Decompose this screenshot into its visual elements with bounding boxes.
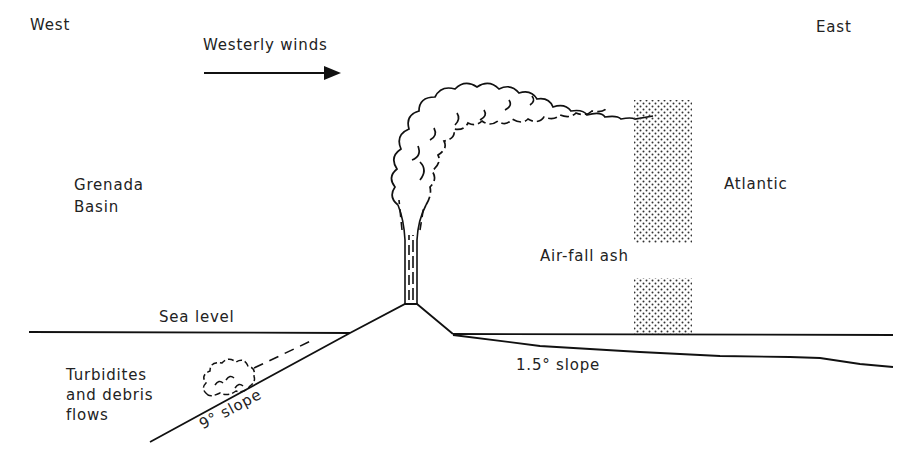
turbidites-label-line1: Turbidites bbox=[66, 366, 147, 385]
ash-plume-cloud bbox=[391, 83, 653, 205]
west-label: West bbox=[30, 16, 70, 35]
turbidites-label-line3: flows bbox=[66, 406, 109, 425]
east-label: East bbox=[816, 18, 852, 37]
airfall-ash-lower bbox=[634, 278, 692, 334]
sea-level-label: Sea level bbox=[159, 308, 235, 327]
grenada-basin-label-line1: Grenada bbox=[74, 176, 144, 195]
wind-arrow-icon bbox=[204, 66, 341, 80]
eruption-column bbox=[398, 200, 426, 304]
grenada-basin-label-line2: Basin bbox=[74, 198, 119, 217]
sea-surface-east bbox=[453, 334, 893, 335]
atlantic-label: Atlantic bbox=[724, 175, 787, 194]
westerly-winds-label: Westerly winds bbox=[203, 36, 328, 55]
turbidites-label-line2: and debris bbox=[66, 386, 153, 405]
airfall-ash-upper bbox=[634, 100, 692, 243]
turbidite-dashed-line bbox=[254, 339, 315, 368]
east-slope-label: 1.5° slope bbox=[516, 356, 600, 375]
airfall-ash-label: Air-fall ash bbox=[540, 247, 629, 266]
sea-level-line bbox=[29, 332, 350, 333]
